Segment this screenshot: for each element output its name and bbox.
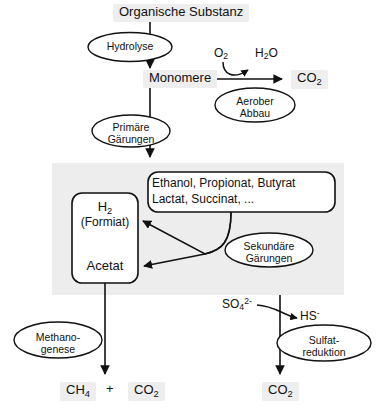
h2o-subscript: 2 <box>264 51 269 61</box>
process-label-sekundaere-gaerungen-line2: Gärungen <box>229 252 309 264</box>
so4-charge: 2- <box>244 296 252 306</box>
node-acetat: Acetat <box>72 258 138 274</box>
node-sulfate: SO42- <box>222 297 252 313</box>
process-label-sulfatreduktion-line2: reduktion <box>284 346 364 358</box>
co2-sulfat-subscript: 2 <box>288 389 293 399</box>
arrow-so4-to-hs <box>257 305 297 318</box>
node-hydrogensulfide: HS- <box>300 309 320 323</box>
anaerobic-degradation-diagram: Organische Substanz Hydrolyse O2 H2O Mon… <box>0 0 382 411</box>
ch4-subscript: 4 <box>85 389 90 399</box>
o2-subscript: 2 <box>223 51 228 61</box>
node-co2-aerob: CO2 <box>291 70 328 89</box>
co2-methano-subscript: 2 <box>154 389 159 399</box>
node-h2o: H2O <box>255 47 278 62</box>
node-ch4: CH4 <box>60 382 96 401</box>
process-label-sulfatreduktion-line1: Sulfat- <box>284 334 364 346</box>
process-label-primaere-gaerungen-line1: Primäre <box>91 121 171 133</box>
hs-charge: - <box>317 308 320 318</box>
node-formiat: (Formiat) <box>72 215 138 229</box>
node-fermentation-products-line1: Ethanol, Propionat, Butyrat <box>152 176 331 190</box>
node-fermentation-products-line2: Lactat, Succinat, ... <box>152 192 331 206</box>
process-label-aerober-abbau-line2: Abbau <box>215 107 295 119</box>
node-organische-substanz: Organische Substanz <box>113 4 249 22</box>
plus-sign: + <box>106 382 114 397</box>
node-monomere: Monomere <box>143 70 217 88</box>
process-label-aerober-abbau-line1: Aerober <box>215 95 295 107</box>
process-label-sekundaere-gaerungen-line1: Sekundäre <box>229 240 309 252</box>
node-co2-methano: CO2 <box>128 382 165 401</box>
node-co2-sulfat: CO2 <box>262 382 299 401</box>
arrow-o2-to-h2o <box>223 62 248 75</box>
process-label-hydrolyse: Hydrolyse <box>88 40 172 52</box>
co2-aerob-subscript: 2 <box>317 77 322 87</box>
node-o2: O2 <box>214 47 228 62</box>
process-label-primaere-gaerungen-line2: Gärungen <box>91 133 171 145</box>
process-label-methanogenese-line2: genese <box>18 343 98 355</box>
process-label-methanogenese-line1: Methano- <box>18 331 98 343</box>
